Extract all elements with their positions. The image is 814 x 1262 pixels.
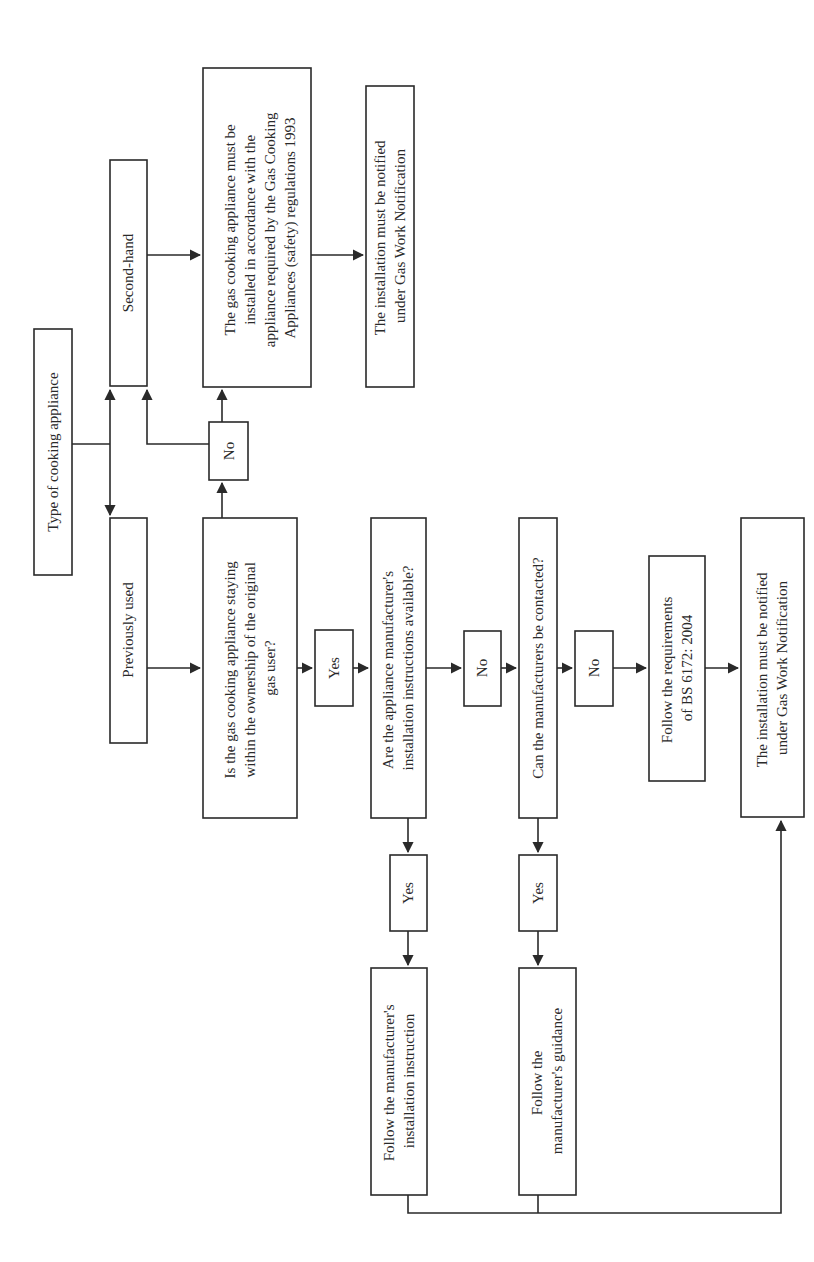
label-second-hand: Second-hand — [120, 233, 136, 312]
node-notify-bottom — [741, 518, 804, 817]
flowchart: Type of cooking appliance Second-hand Pr… — [0, 0, 814, 1262]
label-no-ownership: No — [221, 442, 237, 460]
label-no-contact: No — [586, 659, 602, 677]
arrow-follow-to-notify — [408, 821, 781, 1213]
label-yes-contact: Yes — [530, 882, 546, 904]
label-yes-ownership: Yes — [326, 657, 342, 679]
arrow-no-to-second-hand — [147, 390, 209, 444]
label-type-of-appliance: Type of cooking appliance — [45, 372, 61, 532]
label-previously-used: Previously used — [120, 582, 136, 678]
node-bs6172 — [649, 556, 705, 781]
label-contact-question: Can the manufacturers be contacted? — [530, 557, 546, 779]
label-yes-instructions: Yes — [400, 882, 416, 904]
label-no-instructions: No — [474, 659, 490, 677]
node-follow-instructions — [371, 968, 427, 1195]
node-follow-guidance — [519, 968, 576, 1195]
